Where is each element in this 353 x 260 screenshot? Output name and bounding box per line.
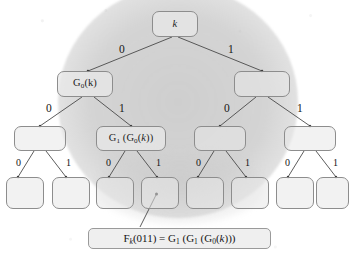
edge-label-0-01: 1 xyxy=(119,103,125,115)
edge-01-011 xyxy=(137,151,157,177)
edge-00-001 xyxy=(46,151,66,177)
tree-node-00[interactable] xyxy=(14,126,66,151)
tree-leaf-011[interactable] xyxy=(141,177,179,209)
node-01-rest: (G xyxy=(123,132,134,143)
tree-node-0-label: G0(k) xyxy=(73,78,97,90)
tree-node-01-label: G1 (G0(k)) xyxy=(109,133,154,145)
edge-label-01-011: 1 xyxy=(156,158,161,168)
caption-g0-sub: 0 xyxy=(212,236,216,245)
node-0-arg: (k) xyxy=(84,77,97,88)
edge-0-01 xyxy=(94,97,131,126)
tree-node-root-label: k xyxy=(173,19,178,30)
caption-g1b-sub: 1 xyxy=(194,236,198,245)
caption-g1a-sub: 1 xyxy=(176,236,180,245)
edge-label-0-00: 0 xyxy=(46,103,52,115)
edge-label-11-110: 0 xyxy=(285,158,290,168)
tree-node-0[interactable]: G0(k) xyxy=(57,71,113,97)
edge-label-1-10: 0 xyxy=(224,103,230,115)
edge-root-0 xyxy=(88,37,172,71)
tree-leaf-101[interactable] xyxy=(231,177,269,209)
edge-label-root-0: 0 xyxy=(119,44,125,56)
edge-01-010 xyxy=(109,151,125,177)
tree-node-10[interactable] xyxy=(194,126,246,151)
edge-10-101 xyxy=(226,151,246,177)
tree-leaf-010[interactable] xyxy=(96,177,134,209)
edge-label-1-11: 1 xyxy=(297,103,303,115)
tree-leaf-100[interactable] xyxy=(186,177,224,209)
result-caption-box[interactable]: Fk(011) = G1 (G1 (G0(k))) xyxy=(88,228,271,249)
edge-11-110 xyxy=(288,151,304,177)
tree-leaf-001[interactable] xyxy=(52,177,90,209)
tree-node-01[interactable]: G1 (G0(k)) xyxy=(96,126,166,151)
tree-node-root[interactable]: k xyxy=(152,11,198,37)
tree-node-1[interactable] xyxy=(234,71,290,97)
figure-canvas: k G0(k) G1 (G0(k)) 0 1 0 1 0 1 0 1 0 1 0… xyxy=(0,0,353,260)
tree-leaf-000[interactable] xyxy=(6,177,44,209)
edge-label-01-010: 0 xyxy=(106,158,111,168)
edge-label-00-000: 0 xyxy=(16,158,21,168)
edge-1-11 xyxy=(268,97,310,126)
edge-label-11-111: 1 xyxy=(333,158,338,168)
tree-leaf-111[interactable] xyxy=(316,177,349,209)
tree-node-11[interactable] xyxy=(284,126,336,151)
tree-leaf-110[interactable] xyxy=(276,177,314,209)
edge-label-10-100: 0 xyxy=(196,158,201,168)
edge-label-00-001: 1 xyxy=(66,158,71,168)
node-01-sub1: 1 xyxy=(116,136,120,144)
edge-label-root-1: 1 xyxy=(228,44,234,56)
caption-f-sub: k xyxy=(130,236,133,245)
edge-label-10-101: 1 xyxy=(245,158,250,168)
edge-root-1 xyxy=(178,37,262,71)
node-01-tail: (k)) xyxy=(138,132,154,143)
caption-text: Fk(011) = G1 (G1 (G0(k))) xyxy=(123,232,235,246)
root-k-text: k xyxy=(173,18,178,29)
